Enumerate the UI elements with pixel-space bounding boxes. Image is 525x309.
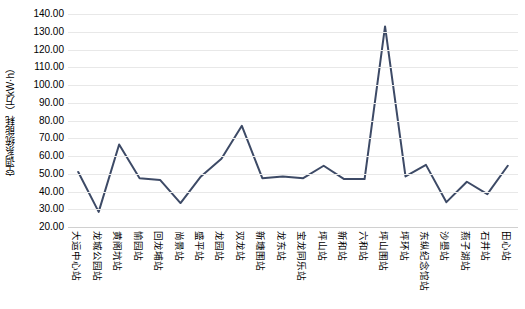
- x-axis-tick-label: 尚景站: [172, 231, 186, 309]
- y-axis-tick-label: 40.00: [39, 187, 64, 197]
- x-axis-tick-label: 沙壆站: [437, 231, 451, 309]
- y-axis-title-text: 空调系统能耗（万kW·h）: [3, 63, 18, 176]
- y-axis-tick-label: 80.00: [39, 116, 64, 126]
- y-axis-title: 空调系统能耗（万kW·h）: [0, 0, 20, 240]
- y-axis-tick-label: 20.00: [39, 222, 64, 232]
- x-axis-tick-label: 龙东站: [274, 231, 288, 309]
- x-axis-tick-label: 大运中心站: [69, 231, 83, 309]
- y-axis-tick-label: 130.00: [33, 27, 64, 37]
- y-axis-tick-label: 60.00: [39, 151, 64, 161]
- gridline: [68, 32, 518, 33]
- x-axis-tick-label: 六和站: [356, 231, 370, 309]
- gridline: [68, 156, 518, 157]
- gridline: [68, 85, 518, 86]
- x-axis-tick-label: 龙城公园站: [90, 231, 104, 309]
- gridline: [68, 103, 518, 104]
- y-axis-tick-label: 90.00: [39, 98, 64, 108]
- x-axis-tick-label: 石井站: [478, 231, 492, 309]
- x-axis-tick-label: 回龙埔站: [151, 231, 165, 309]
- plot-area: [68, 14, 518, 227]
- x-axis-tick-label: 黄阁坑站: [110, 231, 124, 309]
- y-axis-tick-label: 50.00: [39, 169, 64, 179]
- gridline: [68, 209, 518, 210]
- x-axis-tick-label: 坪山站: [315, 231, 329, 309]
- gridline: [68, 67, 518, 68]
- x-axis-line: [68, 227, 518, 228]
- y-axis-tick-label: 110.00: [34, 62, 64, 72]
- x-axis-tick-label: 坪山围站: [376, 231, 390, 309]
- gridline: [68, 14, 518, 15]
- y-axis-tick-label: 30.00: [39, 204, 64, 214]
- y-axis-tick-label: 100.00: [33, 80, 64, 90]
- x-axis-tick-label: 新塘围站: [253, 231, 267, 309]
- y-axis-tick-labels: 140.00130.00120.00110.00100.0090.0080.00…: [20, 14, 66, 227]
- y-axis-tick-label: 140.00: [33, 9, 64, 19]
- x-axis-tick-label: 宝龙同乐站: [294, 231, 308, 309]
- x-axis-tick-label: 愉园站: [131, 231, 145, 309]
- gridline: [68, 50, 518, 51]
- x-axis-tick-label: 龙园站: [212, 231, 226, 309]
- x-axis-tick-label: 坪环站: [397, 231, 411, 309]
- gridline: [68, 192, 518, 193]
- x-axis-tick-label: 盛平站: [192, 231, 206, 309]
- y-axis-tick-label: 70.00: [39, 133, 64, 143]
- gridline: [68, 121, 518, 122]
- x-axis-tick-label: 燕子湖站: [458, 231, 472, 309]
- x-axis-tick-label: 东纵纪念馆站: [417, 231, 431, 309]
- chart-container: 空调系统能耗（万kW·h） 140.00130.00120.00110.0010…: [0, 0, 525, 309]
- x-axis-tick-label: 双龙站: [233, 231, 247, 309]
- x-axis-tick-labels: 大运中心站龙城公园站黄阁坑站愉园站回龙埔站尚景站盛平站龙园站双龙站新塘围站龙东站…: [68, 231, 518, 309]
- y-axis-tick-label: 120.00: [33, 45, 64, 55]
- gridline: [68, 174, 518, 175]
- gridline: [68, 138, 518, 139]
- x-axis-tick-label: 新和站: [335, 231, 349, 309]
- x-axis-tick-label: 田心站: [499, 231, 513, 309]
